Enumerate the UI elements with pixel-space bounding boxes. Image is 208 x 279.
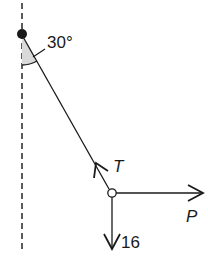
angle-label: 30°	[47, 33, 73, 52]
bob-point	[108, 189, 116, 197]
force-diagram: 30° T P 16	[0, 0, 208, 279]
force-p-label: P	[186, 207, 198, 226]
weight-label: 16	[121, 233, 140, 252]
tension-label: T	[113, 157, 125, 176]
pivot-point	[17, 29, 27, 39]
angle-label-leader	[33, 49, 45, 57]
